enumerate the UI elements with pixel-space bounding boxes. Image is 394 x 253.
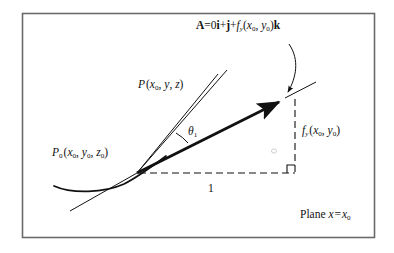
rise-f-subscript: y: [305, 130, 308, 138]
plane-equals: =: [335, 208, 342, 220]
theta-subscript: 1: [194, 131, 198, 139]
point-P-label: P (x0, y, z): [138, 79, 183, 91]
angle-theta-label: θ1: [188, 126, 197, 138]
point-P0-symbol: P: [52, 146, 59, 158]
paren-close-P: ): [180, 78, 184, 90]
plane-word: Plane: [300, 208, 326, 220]
rise-length-label: fy (x0, y0): [302, 125, 340, 137]
run-length-label: 1: [208, 183, 214, 195]
plane-caption: Plane x = x0: [300, 209, 351, 221]
paren-close-rise: ): [336, 124, 340, 136]
paren-close-P0: ): [104, 146, 108, 158]
plane-var-x: x: [328, 208, 333, 220]
point-P0-subscript: 0: [59, 152, 63, 160]
point-P-symbol: P: [138, 78, 145, 90]
point-P0-label: P0 (x0, y0, z0): [52, 147, 108, 159]
figure-canvas: A=0i+j+fy(x0, y0)k P (x0, y, z) P0 (x0, …: [0, 0, 394, 253]
vector-equation-label: A=0i+j+fy(x0, y0)k: [196, 20, 280, 32]
plane-value-subscript: 0: [347, 214, 351, 222]
unit-vector-k: k: [274, 19, 280, 31]
